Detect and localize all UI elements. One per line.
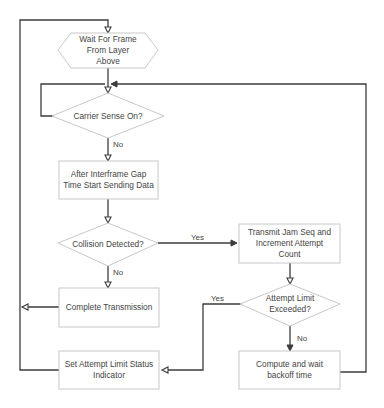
arrow-carrier-in xyxy=(105,87,111,93)
edge-label-carrier-no: No xyxy=(113,140,123,149)
flowchart-canvas xyxy=(0,0,384,408)
label-attempt-limit: Attempt Limit Exceeded? xyxy=(245,292,335,316)
label-line: Carrier Sense On? xyxy=(73,111,142,122)
label-line: Increment Attempt xyxy=(256,238,323,249)
label-after-ifg: After Interframe Gap Time Start Sending … xyxy=(59,161,158,199)
arrow-jam-in xyxy=(231,240,237,246)
label-line: Transmit Jam Seq and xyxy=(248,227,331,238)
label-line: Attempt Limit xyxy=(266,293,314,304)
label-complete: Complete Transmission xyxy=(59,288,159,327)
label-line: Count xyxy=(278,249,300,260)
arrow-complete-loop xyxy=(22,304,28,310)
label-line: backoff time xyxy=(267,370,312,381)
label-line: Indicator xyxy=(93,370,125,381)
label-line: Set Attempt Limit Status xyxy=(65,359,154,370)
edge-label-limit-no: No xyxy=(297,334,307,343)
arrow-limit-in xyxy=(287,278,293,284)
label-line: Time Start Sending Data xyxy=(63,180,154,191)
label-line: After Interframe Gap xyxy=(71,169,147,180)
edge-label-collision-yes: Yes xyxy=(191,233,204,242)
label-line: Collision Detected? xyxy=(72,239,143,250)
label-line: Complete Transmission xyxy=(66,302,153,313)
arrow-collision-in xyxy=(105,217,111,223)
label-wait-frame: Wait For Frame From Layer Above xyxy=(62,33,154,68)
arrow-backoff-return xyxy=(111,81,117,87)
edge-label-collision-no: No xyxy=(113,268,123,277)
label-set-status: Set Attempt Limit Status Indicator xyxy=(59,351,159,389)
edge-limit-yes xyxy=(165,304,243,370)
label-collision: Collision Detected? xyxy=(58,233,158,255)
label-backoff: Compute and wait backoff time xyxy=(239,351,340,389)
label-carrier-sense: Carrier Sense On? xyxy=(58,105,158,127)
label-line: Wait For Frame xyxy=(79,34,136,45)
label-transmit-jam: Transmit Jam Seq and Increment Attempt C… xyxy=(239,224,340,263)
label-line: Compute and wait xyxy=(256,359,323,370)
label-line: Exceeded? xyxy=(269,304,311,315)
edge-label-limit-yes: Yes xyxy=(211,294,224,303)
arrow-status-in xyxy=(162,367,168,373)
label-line: Above xyxy=(96,56,120,67)
label-line: From Layer xyxy=(87,45,129,56)
